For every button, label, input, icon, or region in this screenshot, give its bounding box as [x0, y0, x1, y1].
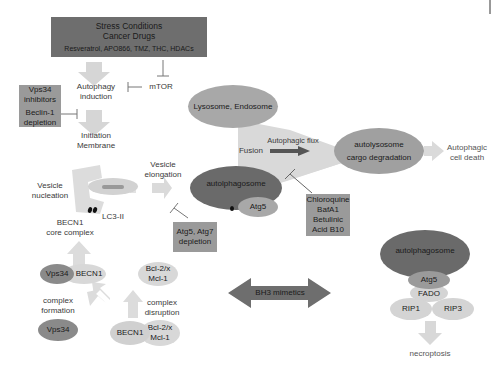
- vesicle-nucleation-label: Vesicle nucleation: [28, 181, 72, 201]
- lc3-ii-label: LC3-II: [98, 212, 128, 222]
- vps34-inhibitors-box: Vps34 inhibitors Beclin-1 depletion: [19, 85, 61, 127]
- fusion-label: Fusion: [236, 146, 266, 156]
- complex-formation-label: complex formation: [36, 296, 80, 316]
- becn1-ellipse-bottom: BECN1: [110, 321, 150, 345]
- vps34-ellipse-top: Vps34: [40, 264, 74, 284]
- mtor-label: mTOR: [146, 82, 176, 92]
- arrow-elongation: [152, 177, 172, 199]
- vesicle-ellipse: [88, 178, 138, 195]
- necro-atg5-ellipse: Atg5: [408, 271, 450, 289]
- necro-rip3-ellipse: RIP3: [432, 298, 474, 320]
- lysosome-endosome-ellipse: Lysosome, Endosome: [188, 85, 278, 128]
- arrow-necroptosis: [418, 321, 442, 345]
- atg5-ellipse: Atg5: [238, 197, 278, 217]
- necroptosis-label: necroptosis: [400, 349, 460, 359]
- initiation-membrane-label: Initiation Membrane: [68, 131, 124, 151]
- cancer-drugs-label: Cancer Drugs: [103, 31, 155, 41]
- bcl2-ellipse-top: Bcl-2/x Mcl-1: [138, 262, 178, 286]
- autophagy-induction-label: Autophagy induction: [68, 82, 124, 102]
- lc3-dot: [230, 206, 234, 211]
- stress-conditions-box: Stress Conditions Cancer Drugs Resveratr…: [51, 17, 207, 57]
- vesicle-cargo: [102, 185, 124, 189]
- necro-rip1-ellipse: RIP1: [390, 298, 432, 320]
- arrow-up-core: [67, 241, 91, 266]
- vps34-ellipse-bottom: Vps34: [38, 319, 78, 341]
- drug-list-label: Resveratrol, APO866, TMZ, THC, HDACs: [64, 44, 193, 54]
- autolysosome-ellipse: autolysosome cargo degradation: [334, 128, 424, 174]
- arrow-cell-death: [424, 141, 444, 161]
- stress-conditions-label: Stress Conditions: [96, 21, 163, 31]
- bh3-mimetics-label: BH3 mimetics: [250, 288, 310, 298]
- lysosome-inhibitors-box: Chloroquine BafA1 Betulinic Acid B10: [306, 194, 350, 236]
- complex-disruption-label: complex disruption: [140, 298, 184, 318]
- vesicle-elongation-label: Vesicle elongation: [138, 160, 188, 180]
- autophagic-cell-death-label: Autophagic cell death: [442, 143, 492, 163]
- autophagic-flux-label: Autophagic flux: [258, 136, 328, 146]
- becn1-core-complex-label: BECN1 core complex: [40, 218, 100, 238]
- atg-depletion-box: Atg5, Atg7 depletion: [173, 222, 217, 252]
